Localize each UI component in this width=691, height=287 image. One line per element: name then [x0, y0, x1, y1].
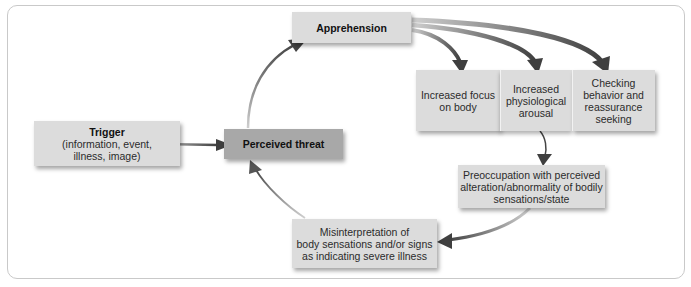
node-arousal-line: physiological	[506, 95, 566, 107]
node-checking-behavior: Checking behavior and reassurance seekin…	[572, 70, 655, 131]
arrow-apprehension-to-focus	[412, 30, 468, 74]
node-physiological-arousal: Increased physiological arousal	[500, 70, 572, 131]
box-divider	[500, 70, 501, 131]
arrow-threat-to-apprehension	[248, 38, 308, 128]
node-misinterpretation-line: Misinterpretation of	[320, 226, 409, 238]
node-arousal-line: arousal	[519, 107, 553, 119]
node-checking-line: behavior and	[583, 89, 644, 101]
node-apprehension-label: Apprehension	[316, 22, 387, 34]
arrow-misinterpretation-to-threat	[249, 160, 305, 218]
node-preoccupation-line: Preoccupation with perceived	[463, 169, 600, 181]
node-apprehension: Apprehension	[292, 12, 411, 43]
node-perceived-threat-label: Perceived threat	[243, 138, 325, 150]
node-checking-line: seeking	[595, 113, 631, 125]
node-preoccupation-line: alteration/abnormality of bodily	[460, 181, 602, 193]
node-preoccupation: Preoccupation with perceived alteration/…	[458, 165, 605, 208]
node-trigger-line: illness, image)	[73, 150, 140, 162]
arrow-preoccupation-to-misinterpretation	[437, 208, 530, 249]
node-trigger-title: Trigger	[89, 126, 125, 138]
node-trigger: Trigger (information, event, illness, im…	[34, 121, 180, 166]
box-divider	[572, 70, 573, 131]
node-checking-line: reassurance	[585, 101, 643, 113]
node-arousal-line: Increased	[513, 83, 559, 95]
node-misinterpretation-line: body sensations and/or signs	[296, 238, 432, 250]
node-focus-line: on body	[439, 101, 476, 113]
node-focus-line: Increased focus	[421, 89, 495, 101]
node-misinterpretation: Misinterpretation of body sensations and…	[292, 219, 437, 268]
node-misinterpretation-line: as indicating severe illness	[302, 250, 427, 262]
node-perceived-threat: Perceived threat	[224, 129, 343, 159]
node-increased-focus: Increased focus on body	[416, 70, 500, 131]
node-preoccupation-line: sensations/state	[494, 193, 570, 205]
arrow-arousal-to-preoccupation	[537, 131, 552, 166]
node-checking-line: Checking	[592, 77, 636, 89]
node-trigger-line: (information, event,	[62, 138, 152, 150]
